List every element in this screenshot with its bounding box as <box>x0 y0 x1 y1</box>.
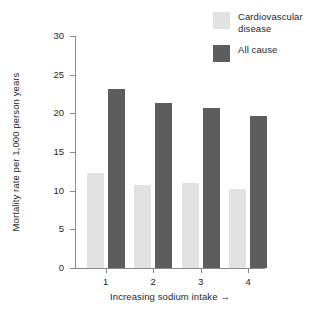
y-axis-tick-label: 0 <box>59 262 64 273</box>
y-axis-tick: 5 <box>70 229 75 230</box>
y-axis-tick-label: 10 <box>53 185 64 196</box>
y-axis-tick: 30 <box>70 36 75 37</box>
bar-chart-figure: Cardiovascular disease All cause 0510152… <box>0 0 334 315</box>
plot-area: 051015202530 1234 <box>75 36 265 268</box>
legend-item-cardiovascular-disease: Cardiovascular disease <box>213 11 331 34</box>
y-axis-tick: 20 <box>70 113 75 114</box>
y-axis-tick: 15 <box>70 152 75 153</box>
x-axis-tick-label: 2 <box>151 276 156 287</box>
y-axis-tick-label: 5 <box>59 223 64 234</box>
legend-swatch-cardiovascular-disease <box>213 12 230 29</box>
y-axis-tick: 25 <box>70 75 75 76</box>
x-axis-tick <box>153 268 154 273</box>
bar <box>250 116 267 268</box>
x-axis-line <box>75 268 265 269</box>
y-axis-tick-label: 25 <box>53 69 64 80</box>
bar <box>203 108 220 268</box>
x-axis-tick-label: 1 <box>103 276 108 287</box>
bar <box>108 89 125 268</box>
x-axis-tick-label: 4 <box>246 276 251 287</box>
y-axis-tick-label: 20 <box>53 107 64 118</box>
legend-label-cardiovascular-disease: Cardiovascular disease <box>238 11 331 34</box>
x-axis-tick <box>106 268 107 273</box>
y-axis-tick-label: 30 <box>53 30 64 41</box>
y-axis-tick: 0 <box>70 268 75 269</box>
x-axis-tick <box>201 268 202 273</box>
y-axis-tick: 10 <box>70 191 75 192</box>
y-axis-tick-label: 15 <box>53 146 64 157</box>
bar <box>229 189 246 268</box>
bar <box>182 183 199 268</box>
x-axis-tick-label: 3 <box>198 276 203 287</box>
x-axis-title: Increasing sodium intake → <box>75 291 265 302</box>
bar <box>134 185 151 268</box>
y-axis-title: Mortality rate per 1,000 person years <box>10 36 25 268</box>
y-axis-line <box>75 36 76 268</box>
bar <box>155 103 172 268</box>
x-axis-tick <box>248 268 249 273</box>
bar <box>87 173 104 268</box>
